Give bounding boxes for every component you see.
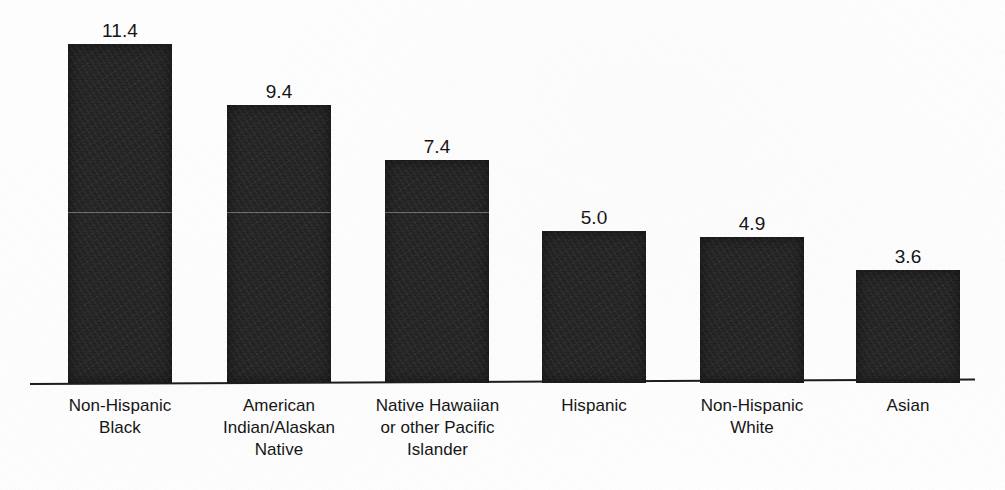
label-line: Asian (833, 395, 983, 417)
x-axis-label-native-hawaiian-pacific-islander: Native Hawaiian or other Pacific Islande… (355, 395, 520, 461)
label-line: White (672, 417, 832, 439)
bar-value-label: 7.4 (424, 137, 451, 156)
label-line: Non-Hispanic (40, 395, 200, 417)
x-axis-label-hispanic: Hispanic (519, 395, 669, 417)
bar-american-indian-alaskan-native: 9.4 (227, 105, 331, 383)
plot-area: 11.4 9.4 7.4 5.0 4.9 (0, 0, 1005, 490)
label-line: or other Pacific (355, 417, 520, 439)
bar-value-label: 9.4 (266, 82, 293, 101)
label-line: Native (194, 439, 364, 461)
label-line: Islander (355, 439, 520, 461)
bar-hispanic: 5.0 (542, 231, 646, 383)
x-axis-label-non-hispanic-white: Non-Hispanic White (672, 395, 832, 439)
label-line: Non-Hispanic (672, 395, 832, 417)
x-axis-label-non-hispanic-black: Non-Hispanic Black (40, 395, 200, 439)
bar-group-asian: 3.6 (856, 270, 960, 383)
bar-chart-figure: 11.4 9.4 7.4 5.0 4.9 (0, 0, 1005, 490)
bar-native-hawaiian-pacific-islander: 7.4 (385, 160, 489, 383)
bar-value-label: 3.6 (895, 247, 922, 266)
x-axis-label-american-indian-alaskan-native: American Indian/Alaskan Native (194, 395, 364, 461)
label-line: Hispanic (519, 395, 669, 417)
label-line: Indian/Alaskan (194, 417, 364, 439)
label-line: American (194, 395, 364, 417)
bar-group-hispanic: 5.0 (542, 231, 646, 383)
bar-value-label: 5.0 (581, 208, 608, 227)
bar-group-american-indian-alaskan-native: 9.4 (227, 105, 331, 383)
bar-non-hispanic-black: 11.4 (68, 44, 172, 383)
bar-value-label: 11.4 (102, 21, 138, 40)
label-line: Black (40, 417, 200, 439)
bar-group-non-hispanic-black: 11.4 (68, 44, 172, 383)
bar-group-non-hispanic-white: 4.9 (700, 237, 804, 383)
bar-group-native-hawaiian-pacific-islander: 7.4 (385, 160, 489, 383)
label-line: Native Hawaiian (355, 395, 520, 417)
bar-non-hispanic-white: 4.9 (700, 237, 804, 383)
x-axis-label-asian: Asian (833, 395, 983, 417)
bar-asian: 3.6 (856, 270, 960, 383)
bar-value-label: 4.9 (739, 214, 766, 233)
